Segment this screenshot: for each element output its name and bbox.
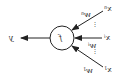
input-label-xi: xi <box>104 34 110 42</box>
input-label-xn: xn <box>104 5 112 13</box>
ellipsis-lower: ⋮ <box>92 49 95 52</box>
weight-label-w1: w1 <box>83 67 93 75</box>
output-label-y: y <box>9 34 14 42</box>
ellipsis-upper: ⋮ <box>92 22 95 25</box>
node-label-f: f <box>59 34 62 42</box>
activation-node <box>50 26 74 50</box>
input-label-x1: x1 <box>104 66 112 74</box>
weight-label-wn: wn <box>81 11 91 19</box>
